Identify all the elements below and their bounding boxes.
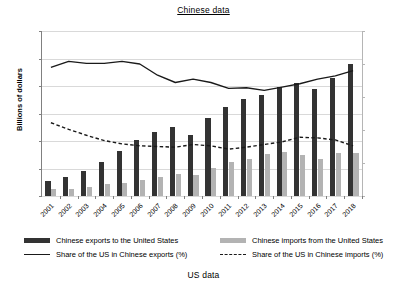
x-tick-label-2008: 2008 (163, 202, 179, 218)
chart-figure: Chinese data Billions of dollars 0100200… (0, 0, 407, 286)
legend-item-share-exports: Share of the US in Chinese exports (%) (24, 250, 220, 259)
x-tick-label-2002: 2002 (57, 202, 73, 218)
legend-label: Share of the US in Chinese exports (%) (56, 250, 187, 259)
chart-legend: Chinese exports to the United States Chi… (24, 233, 394, 261)
x-tick-label-2014: 2014 (270, 202, 286, 218)
dark-swatch-icon (24, 238, 50, 243)
legend-row-bars: Chinese exports to the United States Chi… (24, 233, 394, 247)
x-tick-label-2007: 2007 (146, 202, 162, 218)
x-tick-label-2004: 2004 (92, 202, 108, 218)
dashed-line-icon (220, 251, 246, 258)
legend-label: Share of the US in Chinese imports (%) (252, 250, 383, 259)
x-tick-mark (184, 196, 185, 199)
x-tick-mark (131, 196, 132, 199)
secondary-y-tick-mark (362, 163, 365, 164)
x-tick-label-2006: 2006 (128, 202, 144, 218)
chart-title: Chinese data (0, 5, 407, 15)
x-tick-label-2013: 2013 (252, 202, 268, 218)
legend-row-lines: Share of the US in Chinese exports (%) S… (24, 247, 394, 261)
x-tick-mark (78, 196, 79, 199)
x-tick-label-2009: 2009 (181, 202, 197, 218)
secondary-y-tick-mark (362, 130, 365, 131)
x-tick-label-2011: 2011 (217, 202, 233, 218)
x-tick-mark (220, 196, 221, 199)
x-tick-mark (309, 196, 310, 199)
y-tick-mark (39, 196, 42, 197)
x-tick-label-2017: 2017 (323, 202, 339, 218)
x-tick-mark (326, 196, 327, 199)
plot-area: 0100200300400500600 0%5%10%15%20%25% 200… (42, 31, 362, 196)
x-tick-mark (95, 196, 96, 199)
chart-caption: US data (0, 270, 407, 280)
legend-item-share-imports: Share of the US in Chinese imports (%) (220, 250, 383, 259)
x-tick-mark (149, 196, 150, 199)
x-tick-label-2012: 2012 (235, 202, 251, 218)
x-tick-label-2018: 2018 (341, 202, 357, 218)
x-tick-mark (344, 196, 345, 199)
x-tick-mark (166, 196, 167, 199)
x-tick-label-2016: 2016 (306, 202, 322, 218)
x-tick-mark (238, 196, 239, 199)
x-tick-label-2005: 2005 (110, 202, 126, 218)
y-axis-title: Billions of dollars (15, 35, 24, 165)
legend-item-chinese-imports: Chinese imports from the United States (220, 236, 383, 245)
right-axis-line (362, 31, 363, 196)
x-tick-mark (60, 196, 61, 199)
x-tick-label-2001: 2001 (39, 202, 55, 218)
x-tick-label-2003: 2003 (75, 202, 91, 218)
secondary-y-tick-mark (362, 31, 365, 32)
x-tick-mark (255, 196, 256, 199)
line-share-exports (51, 61, 353, 90)
solid-line-icon (24, 251, 50, 258)
x-tick-label-2010: 2010 (199, 202, 215, 218)
x-tick-mark (291, 196, 292, 199)
secondary-y-tick-mark (362, 97, 365, 98)
line-share-imports (51, 123, 353, 149)
x-tick-mark (202, 196, 203, 199)
x-tick-label-2015: 2015 (288, 202, 304, 218)
x-tick-mark (273, 196, 274, 199)
line-series-layer (42, 31, 362, 196)
x-tick-mark (362, 196, 363, 199)
light-swatch-icon (220, 238, 246, 243)
legend-item-chinese-exports: Chinese exports to the United States (24, 236, 220, 245)
x-tick-mark (113, 196, 114, 199)
legend-label: Chinese imports from the United States (252, 236, 383, 245)
legend-label: Chinese exports to the United States (56, 236, 178, 245)
secondary-y-tick-mark (362, 64, 365, 65)
